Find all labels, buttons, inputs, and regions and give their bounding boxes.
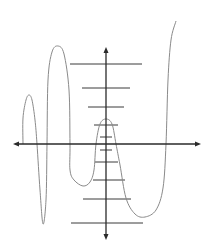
arrow-up-icon: [104, 47, 109, 53]
arrow-right-icon: [195, 142, 201, 147]
diagram-canvas: [0, 0, 213, 250]
arrow-down-icon: [104, 234, 109, 240]
horizontal-line-test-diagram: [0, 0, 213, 250]
arrow-left-icon: [13, 142, 19, 147]
function-curve: [23, 21, 176, 224]
